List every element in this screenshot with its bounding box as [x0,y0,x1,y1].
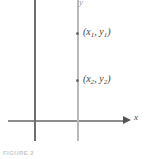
p2-close-paren: ) [107,73,110,84]
p2-x-subscript: 2 [91,78,95,86]
x-axis-arrow-icon [123,116,131,124]
y-axis-label: y [79,0,83,7]
p1-y-subscript: 1 [104,31,108,39]
figure-caption: FIGURE 2 [3,150,34,156]
vertical-test-line [77,0,79,141]
x-axis-line [8,120,126,122]
y-axis-line [34,0,36,141]
p1-close-paren: ) [107,26,110,37]
p2-y-subscript: 2 [104,78,108,86]
data-point-2-label: (x2, y2) [83,73,111,84]
x-axis-label: x [134,112,138,122]
data-point-2 [76,79,79,82]
data-point-1 [76,32,79,35]
figure-container: (x1, y1) (x2, y2) x y FIGURE 2 [0,0,146,159]
data-point-1-label: (x1, y1) [83,26,111,37]
p1-x-subscript: 1 [91,31,95,39]
